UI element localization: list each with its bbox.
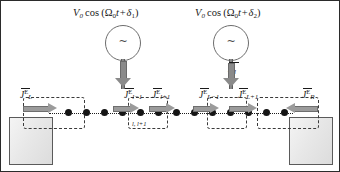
drive-2-label: V0 cos (Ω0t + δ2) <box>195 8 260 20</box>
drive-2-cos: cos <box>207 7 221 18</box>
ac-source-icon: ~ <box>106 35 140 48</box>
lattice-site <box>83 109 90 116</box>
drive-2-close-paren: ) <box>257 7 261 18</box>
drive-2-power-arrow-head <box>223 78 239 87</box>
current-2-subscript: l+1 <box>160 93 170 101</box>
current-label-J-l-1: JEl−1 <box>124 89 142 101</box>
current-label-J-L-1: JEL−1 <box>199 89 219 101</box>
cell-index-label: l, l+1 <box>132 120 147 127</box>
drive-1-close-paren: ) <box>135 7 139 18</box>
current-0-subscript: L <box>28 93 32 101</box>
drive-1-oscillator: ~ <box>105 25 141 61</box>
current-5-subscript: R <box>310 93 314 101</box>
current-3-subscript: L−1 <box>207 93 219 101</box>
current-arrow-J-l-plus-1 <box>149 104 175 113</box>
drive-1-cos: cos <box>85 7 99 18</box>
current-arrow-J-L-1 <box>193 104 219 113</box>
lattice-site <box>65 109 72 116</box>
current-label-J-L: JEL <box>20 89 32 101</box>
lattice-site <box>263 109 270 116</box>
current-4-subscript: L+1 <box>246 93 258 101</box>
figure-canvas: V0 cos (Ω0t + δ1) ~ V0 cos (Ω0t + δ2) ~ … <box>0 0 340 172</box>
drive-2-power-arrow-shaft <box>228 63 235 79</box>
current-arrow-J-L-plus-1 <box>229 104 257 113</box>
current-label-J-L-plus-1: JEL+1 <box>238 89 258 101</box>
current-arrow-J-R <box>286 104 318 113</box>
drive-1-label: V0 cos (Ω0t + δ1) <box>73 8 138 20</box>
current-1-subscript: l−1 <box>132 93 142 101</box>
current-label-J-R: JER <box>302 89 314 101</box>
ac-source-icon: ~ <box>214 35 248 48</box>
lattice-site <box>101 109 108 116</box>
drive-2-oscillator: ~ <box>213 25 249 61</box>
current-label-J-l-plus-1: JEl+1 <box>152 89 170 101</box>
current-arrow-J-l-1 <box>113 104 139 113</box>
drive-1-power-arrow-head <box>115 78 131 87</box>
drive-1-power-arrow-shaft <box>120 61 127 79</box>
current-arrow-J-L <box>23 104 57 113</box>
